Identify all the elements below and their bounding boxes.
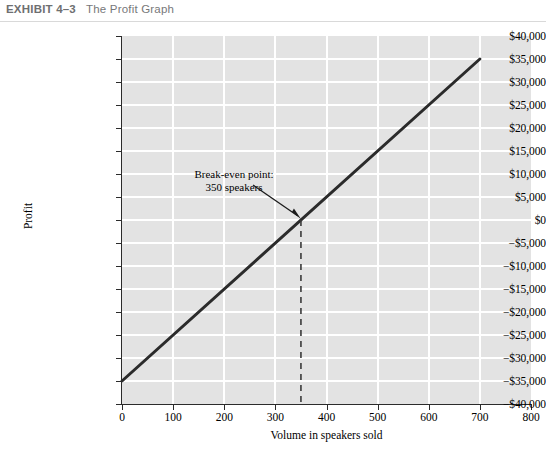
y-axis-tick bbox=[116, 312, 121, 313]
y-axis-title: Profit bbox=[22, 176, 34, 256]
profit-graph-chart: $40,000$35,000$30,000$25,000$20,000$15,0… bbox=[0, 0, 546, 449]
y-axis-tick-label: $35,000 bbox=[438, 53, 546, 65]
y-axis-tick bbox=[116, 335, 121, 336]
y-axis-tick-label: −$40,000 bbox=[438, 398, 546, 410]
x-axis-tick-label: 200 bbox=[216, 411, 233, 423]
y-axis-tick-label: $40,000 bbox=[438, 30, 546, 42]
y-axis-tick bbox=[116, 197, 121, 198]
gridline-vertical bbox=[274, 36, 276, 404]
gridline-vertical bbox=[428, 36, 430, 404]
y-axis-tick-label: −$15,000 bbox=[438, 283, 546, 295]
x-axis-tick bbox=[327, 405, 328, 410]
y-axis-tick bbox=[116, 36, 121, 37]
y-axis-line bbox=[121, 36, 122, 405]
gridline-vertical bbox=[172, 36, 174, 404]
y-axis-tick bbox=[116, 381, 121, 382]
y-axis-tick bbox=[116, 151, 121, 152]
y-axis-tick-label: $20,000 bbox=[438, 122, 546, 134]
y-axis-tick bbox=[116, 404, 121, 405]
y-axis-tick-label: −$5,000 bbox=[438, 237, 546, 249]
x-axis-tick-label: 600 bbox=[420, 411, 437, 423]
y-axis-tick-label: $15,000 bbox=[438, 145, 546, 157]
gridline-vertical bbox=[377, 36, 379, 404]
x-axis-tick-label: 0 bbox=[119, 411, 125, 423]
y-axis-tick bbox=[116, 266, 121, 267]
y-axis-tick bbox=[116, 358, 121, 359]
y-axis-tick-label: $30,000 bbox=[438, 76, 546, 88]
x-axis-tick bbox=[275, 405, 276, 410]
break-even-annotation-line2: 350 speakers bbox=[178, 181, 290, 194]
x-axis-tick bbox=[173, 405, 174, 410]
y-axis-tick-label: −$30,000 bbox=[438, 352, 546, 364]
x-axis-tick-label: 100 bbox=[165, 411, 182, 423]
x-axis-tick bbox=[429, 405, 430, 410]
gridline-vertical bbox=[223, 36, 225, 404]
y-axis-tick-label: $10,000 bbox=[438, 168, 546, 180]
y-axis-tick-label: −$10,000 bbox=[438, 260, 546, 272]
y-axis-tick bbox=[116, 128, 121, 129]
x-axis-tick-label: 700 bbox=[471, 411, 488, 423]
x-axis-tick-label: 400 bbox=[318, 411, 335, 423]
y-axis-tick bbox=[116, 174, 121, 175]
x-axis-tick-label: 500 bbox=[369, 411, 386, 423]
x-axis-tick bbox=[378, 405, 379, 410]
x-axis-tick bbox=[122, 405, 123, 410]
x-axis-tick-label: 800 bbox=[522, 411, 539, 423]
y-axis-tick bbox=[116, 243, 121, 244]
x-axis-tick-label: 300 bbox=[267, 411, 284, 423]
x-axis-title: Volume in speakers sold bbox=[122, 429, 531, 441]
y-axis-tick-label: $25,000 bbox=[438, 99, 546, 111]
y-axis-tick bbox=[116, 220, 121, 221]
y-axis-tick-label: $5,000 bbox=[438, 191, 546, 203]
break-even-annotation: Break-even point: 350 speakers bbox=[178, 168, 290, 194]
y-axis-tick-label: −$25,000 bbox=[438, 329, 546, 341]
y-axis-tick-label: $0 bbox=[438, 214, 546, 226]
break-even-annotation-line1: Break-even point: bbox=[178, 168, 290, 181]
y-axis-tick-label: −$35,000 bbox=[438, 375, 546, 387]
y-axis-tick-label: −$20,000 bbox=[438, 306, 546, 318]
gridline-vertical bbox=[326, 36, 328, 404]
y-axis-tick bbox=[116, 59, 121, 60]
x-axis-tick bbox=[224, 405, 225, 410]
y-axis-tick bbox=[116, 82, 121, 83]
y-axis-tick bbox=[116, 289, 121, 290]
y-axis-tick bbox=[116, 105, 121, 106]
